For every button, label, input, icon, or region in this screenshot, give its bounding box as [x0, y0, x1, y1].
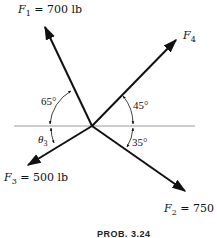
- force-vector-f3: [28, 126, 92, 165]
- angle-arc-45: [123, 96, 133, 124]
- force-vector-f4: [92, 40, 176, 126]
- angle-arc-theta3: [51, 128, 54, 143]
- angle-label-65: 65°: [41, 95, 56, 107]
- angle-label-35: 35°: [132, 136, 147, 148]
- angle-label-theta3: θ3: [38, 133, 47, 148]
- force-label-f3: F3 = 500 lb: [3, 171, 68, 186]
- angle-label-45: 45°: [133, 99, 148, 111]
- force-vector-f1: [45, 27, 92, 126]
- force-label-f4: F4: [182, 29, 196, 44]
- force-label-f2: F2 = 750 lb: [163, 202, 217, 217]
- force-diagram: F1 = 700 lb F4 F3 = 500 lb F2 = 750 lb 6…: [0, 0, 217, 238]
- figure-caption: PROB. 3.24: [97, 229, 151, 238]
- force-label-f1: F1 = 700 lb: [17, 3, 82, 18]
